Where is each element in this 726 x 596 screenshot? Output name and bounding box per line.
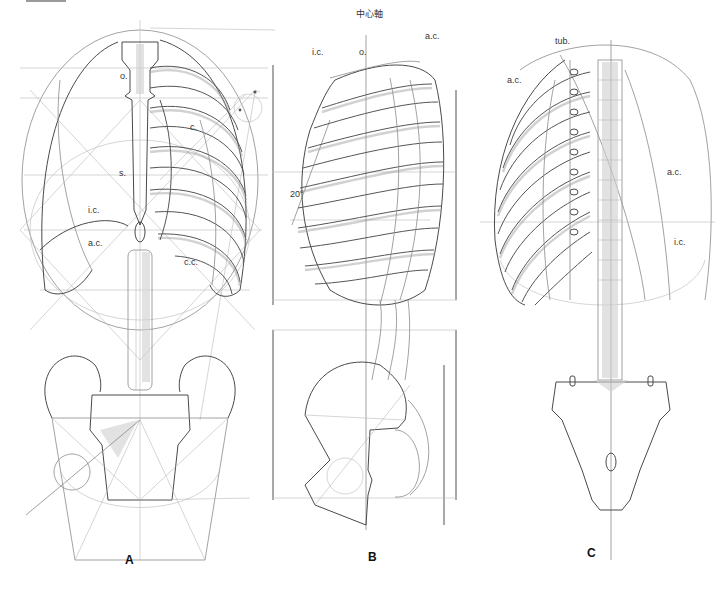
view-c-tubercles [570, 69, 578, 235]
view-b-label-o: o. [359, 48, 367, 57]
view-a-pelvis [26, 356, 250, 560]
view-a-label-ic: i.c. [88, 206, 100, 215]
view-c-drawing [480, 40, 715, 560]
view-b-label-ic: i.c. [312, 48, 324, 57]
caption-view-a: A [125, 554, 134, 566]
view-b-label-center-axis: 中心軸 [356, 10, 383, 19]
drawing-canvas [0, 0, 726, 596]
view-b-pelvis [305, 362, 429, 525]
caption-view-c: C [587, 547, 596, 559]
view-b-label-angle: 20° [290, 190, 304, 199]
view-a-label-ac: a.c. [88, 239, 103, 248]
view-b-drawing [272, 35, 457, 530]
view-a-label-cc: c.c. [184, 258, 198, 267]
view-c-label-tub: tub. [555, 37, 570, 46]
view-a-label-o: o. [120, 72, 128, 81]
caption-view-b: B [368, 551, 377, 563]
view-a-label-c: c. [190, 123, 197, 132]
view-c-label-ac-left: a.c. [507, 76, 522, 85]
anatomy-figure: o. c. s. i.c. a.c. c.c. 中心軸 a.c. i.c. o.… [0, 0, 726, 596]
view-a-label-s: s. [119, 169, 126, 178]
view-b-label-ac: a.c. [425, 32, 440, 41]
view-a-drawing [20, 20, 275, 560]
view-c-label-ic: i.c. [674, 238, 686, 247]
view-c-ribs [498, 72, 592, 305]
view-c-label-ac-right: a.c. [667, 168, 682, 177]
